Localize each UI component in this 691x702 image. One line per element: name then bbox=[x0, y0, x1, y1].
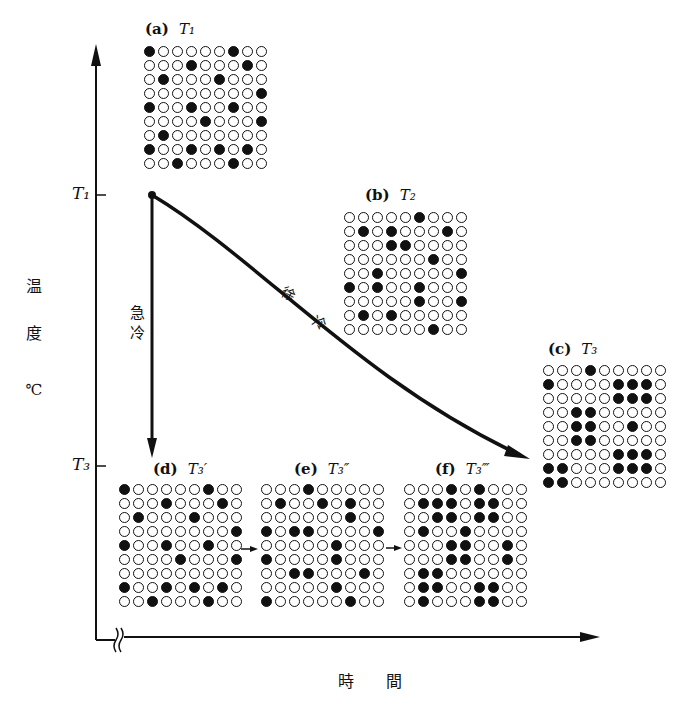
matrix-atom bbox=[242, 74, 253, 85]
matrix-atom bbox=[359, 554, 370, 565]
matrix-atom bbox=[303, 512, 314, 523]
matrix-atom bbox=[460, 484, 471, 495]
matrix-atom bbox=[428, 268, 439, 279]
matrix-atom bbox=[414, 226, 425, 237]
solute-atom bbox=[231, 526, 242, 537]
matrix-atom bbox=[344, 268, 355, 279]
solute-atom bbox=[158, 130, 169, 141]
matrix-atom bbox=[256, 102, 267, 113]
matrix-atom bbox=[331, 512, 342, 523]
matrix-atom bbox=[231, 568, 242, 579]
matrix-atom bbox=[344, 324, 355, 335]
matrix-atom bbox=[256, 46, 267, 57]
matrix-atom bbox=[446, 582, 457, 593]
matrix-atom bbox=[404, 596, 415, 607]
matrix-atom bbox=[372, 254, 383, 265]
matrix-atom bbox=[158, 116, 169, 127]
matrix-atom bbox=[557, 435, 568, 446]
matrix-atom bbox=[203, 554, 214, 565]
tick-label-t3: T₃ bbox=[72, 454, 90, 474]
solute-atom bbox=[460, 526, 471, 537]
solute-atom bbox=[256, 88, 267, 99]
matrix-atom bbox=[186, 88, 197, 99]
matrix-atom bbox=[175, 526, 186, 537]
matrix-atom bbox=[557, 379, 568, 390]
matrix-atom bbox=[502, 484, 513, 495]
solute-atom bbox=[474, 484, 485, 495]
solute-atom bbox=[119, 540, 130, 551]
solute-atom bbox=[418, 596, 429, 607]
matrix-atom bbox=[256, 158, 267, 169]
matrix-atom bbox=[119, 512, 130, 523]
matrix-atom bbox=[386, 296, 397, 307]
matrix-atom bbox=[613, 365, 624, 376]
matrix-atom bbox=[200, 60, 211, 71]
matrix-atom bbox=[655, 407, 666, 418]
solute-atom bbox=[289, 526, 300, 537]
solute-atom bbox=[133, 512, 144, 523]
matrix-atom bbox=[543, 365, 554, 376]
matrix-atom bbox=[217, 568, 228, 579]
matrix-atom bbox=[373, 498, 384, 509]
matrix-atom bbox=[289, 540, 300, 551]
solute-atom bbox=[303, 484, 314, 495]
matrix-atom bbox=[289, 484, 300, 495]
matrix-atom bbox=[144, 130, 155, 141]
matrix-atom bbox=[627, 477, 638, 488]
solute-atom bbox=[303, 568, 314, 579]
matrix-atom bbox=[147, 526, 158, 537]
matrix-atom bbox=[474, 568, 485, 579]
slow-cool-path bbox=[152, 195, 530, 459]
solute-atom bbox=[231, 554, 242, 565]
matrix-atom bbox=[186, 130, 197, 141]
matrix-atom bbox=[203, 526, 214, 537]
matrix-atom bbox=[516, 568, 527, 579]
matrix-atom bbox=[189, 568, 200, 579]
matrix-atom bbox=[359, 512, 370, 523]
matrix-atom bbox=[599, 463, 610, 474]
matrix-atom bbox=[488, 484, 499, 495]
atom-grid-d bbox=[117, 482, 243, 608]
matrix-atom bbox=[256, 130, 267, 141]
solute-atom bbox=[428, 254, 439, 265]
matrix-atom bbox=[414, 254, 425, 265]
solute-atom bbox=[228, 46, 239, 57]
solute-atom bbox=[446, 540, 457, 551]
matrix-atom bbox=[231, 540, 242, 551]
matrix-atom bbox=[345, 582, 356, 593]
matrix-atom bbox=[189, 526, 200, 537]
matrix-atom bbox=[418, 484, 429, 495]
matrix-atom bbox=[331, 498, 342, 509]
solute-atom bbox=[172, 158, 183, 169]
solute-atom bbox=[446, 554, 457, 565]
matrix-atom bbox=[175, 540, 186, 551]
solute-atom bbox=[261, 554, 272, 565]
solute-atom bbox=[432, 512, 443, 523]
matrix-atom bbox=[256, 74, 267, 85]
solute-atom bbox=[418, 526, 429, 537]
solute-atom bbox=[432, 582, 443, 593]
solute-atom bbox=[488, 596, 499, 607]
matrix-atom bbox=[359, 526, 370, 537]
atom-grid-b bbox=[342, 210, 468, 336]
matrix-atom bbox=[543, 393, 554, 404]
matrix-atom bbox=[175, 596, 186, 607]
matrix-atom bbox=[214, 88, 225, 99]
matrix-atom bbox=[488, 554, 499, 565]
y-axis-label-char-2: 度 bbox=[25, 322, 43, 346]
matrix-atom bbox=[358, 268, 369, 279]
matrix-atom bbox=[289, 582, 300, 593]
solute-atom bbox=[217, 498, 228, 509]
matrix-atom bbox=[345, 554, 356, 565]
matrix-atom bbox=[275, 554, 286, 565]
matrix-atom bbox=[331, 568, 342, 579]
matrix-atom bbox=[228, 88, 239, 99]
matrix-atom bbox=[442, 240, 453, 251]
matrix-atom bbox=[359, 582, 370, 593]
matrix-atom bbox=[404, 554, 415, 565]
solute-atom bbox=[186, 144, 197, 155]
matrix-atom bbox=[289, 498, 300, 509]
matrix-atom bbox=[317, 554, 328, 565]
matrix-atom bbox=[655, 393, 666, 404]
matrix-atom bbox=[372, 324, 383, 335]
